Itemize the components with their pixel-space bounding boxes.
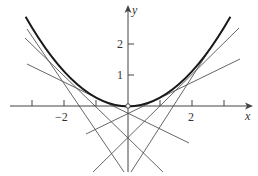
x-tick-label-2: 2	[188, 110, 194, 124]
y-axis-label: y	[131, 3, 138, 17]
parabola-tangent-diagram: −2 2 1 2 x y	[0, 0, 258, 176]
axes	[10, 8, 250, 172]
tangent-line-a-2	[93, 28, 239, 172]
y-tick-label-1: 1	[117, 68, 123, 82]
y-tick-label-2: 2	[117, 37, 123, 51]
origin-open-circle	[126, 104, 130, 108]
tangent-line-a-neg3	[27, 29, 124, 172]
x-axis-label: x	[244, 109, 251, 123]
x-tick-label-neg2: −2	[55, 110, 68, 124]
tangent-lines	[25, 24, 240, 172]
